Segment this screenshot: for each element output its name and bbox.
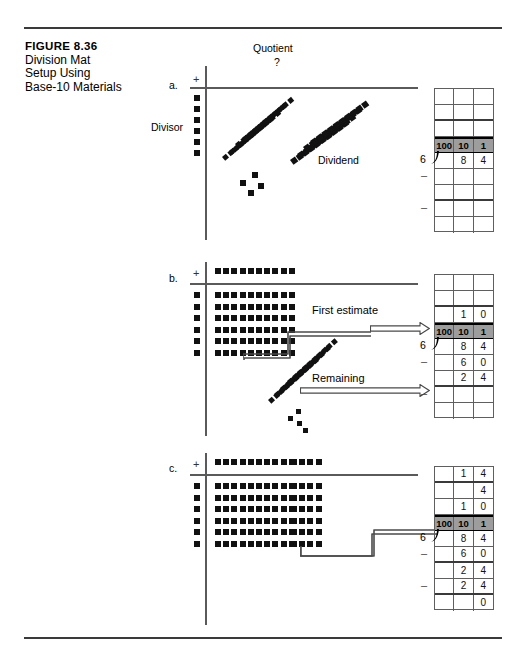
table-cell (474, 387, 493, 402)
array-unit (215, 327, 221, 333)
table-row (435, 217, 493, 233)
table-cell (474, 275, 493, 290)
loose-unit (296, 409, 301, 414)
division-bracket-icon (431, 529, 441, 547)
table-row: 84 (435, 339, 493, 355)
divisor-block (194, 529, 200, 535)
division-bracket-icon (431, 337, 441, 355)
array-unit (223, 483, 229, 489)
array-unit (316, 518, 322, 524)
array-unit (215, 350, 221, 356)
table-row: 84 (435, 531, 493, 547)
table-cell: 4 (474, 531, 493, 546)
table-cell: 1 (454, 499, 473, 514)
table-cell (474, 169, 493, 184)
array-unit (248, 315, 254, 321)
array-unit (231, 315, 237, 321)
table-cell (454, 387, 473, 402)
table-row (435, 185, 493, 201)
table-cell (454, 89, 473, 104)
divisor-number: 6 (420, 153, 426, 165)
place-value-header-row: 100101 (435, 137, 493, 153)
array-unit (231, 495, 237, 501)
divisor-block (194, 139, 200, 145)
quotient-block (240, 268, 246, 274)
array-unit (316, 506, 322, 512)
table-cell (454, 169, 473, 184)
loose-unit (258, 183, 264, 189)
place-value-header-cell: 10 (454, 139, 473, 152)
divisor-block (194, 495, 200, 501)
place-value-table: 14410100101846024240 (434, 466, 494, 610)
divisor-block (194, 95, 200, 101)
loose-unit (240, 180, 246, 186)
panel-b-letter: b. (169, 272, 178, 284)
dividend-label: Dividend (318, 154, 359, 166)
table-cell (435, 563, 454, 578)
array-unit (264, 506, 270, 512)
mat-horizontal-axis-b (190, 283, 418, 285)
quotient-block (281, 268, 287, 274)
table-cell (435, 307, 454, 322)
table-cell: 6 (454, 355, 473, 370)
quotient-block (307, 459, 313, 465)
bottom-rule (24, 637, 502, 639)
table-cell: 4 (474, 563, 493, 578)
quotient-block (231, 268, 237, 274)
array-unit (256, 495, 262, 501)
table-row: 84 (435, 153, 493, 169)
divisor-block (194, 506, 200, 512)
place-value-table: 10100101846024 (434, 274, 494, 418)
array-unit (281, 495, 287, 501)
quotient-block (291, 459, 297, 465)
divisor-block (194, 292, 200, 298)
divisor-block (194, 304, 200, 310)
array-unit (248, 495, 254, 501)
array-unit (256, 292, 262, 298)
table-cell (435, 89, 454, 104)
array-unit (256, 483, 262, 489)
array-unit (231, 518, 237, 524)
divisor-block (194, 128, 200, 134)
array-unit (291, 541, 297, 547)
array-unit (281, 483, 287, 489)
divisor-block (194, 106, 200, 112)
table-row: 24 (435, 579, 493, 595)
array-unit (223, 292, 229, 298)
array-unit (240, 506, 246, 512)
divisor-block (194, 483, 200, 489)
array-unit (223, 529, 229, 535)
table-row: 0 (435, 595, 493, 611)
divisor-block (194, 518, 200, 524)
first-estimate-arrow (370, 322, 430, 335)
array-unit (291, 495, 297, 501)
table-row (435, 201, 493, 217)
minus-sign: – (421, 580, 427, 591)
array-unit (223, 315, 229, 321)
table-cell (474, 185, 493, 199)
array-unit (248, 292, 254, 298)
ten-rod-right (310, 99, 370, 145)
table-row (435, 169, 493, 185)
array-unit (223, 350, 229, 356)
table-cell (435, 275, 454, 290)
array-unit (316, 495, 322, 501)
quotient-block (272, 268, 278, 274)
table-cell: 0 (474, 595, 493, 611)
divisor-block (194, 350, 200, 356)
array-unit (264, 495, 270, 501)
table-cell (435, 387, 454, 402)
elbow-first-estimate-2 (243, 332, 373, 364)
array-unit (215, 495, 221, 501)
callout-first-estimate-label: First estimate (312, 304, 378, 316)
table-cell: 2 (454, 579, 473, 593)
place-value-header-cell: 1 (474, 139, 493, 152)
table-cell (454, 483, 473, 498)
array-unit (256, 529, 262, 535)
array-unit (264, 315, 270, 321)
table-row (435, 121, 493, 137)
table-cell (435, 169, 454, 184)
array-unit (248, 483, 254, 489)
table-cell (454, 595, 473, 611)
quotient-block (264, 268, 270, 274)
